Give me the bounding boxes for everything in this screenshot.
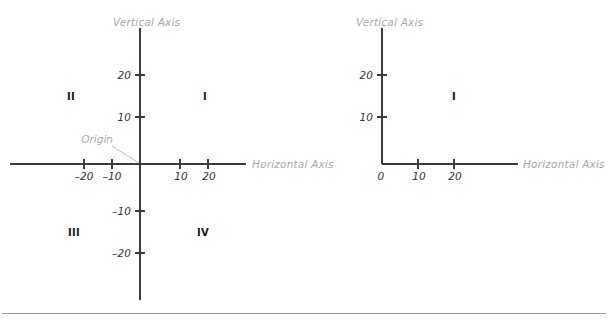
right-horizontal-axis-title: Horizontal Axis [523, 158, 605, 170]
left-vertical-axis-title: Vertical Axis [113, 16, 180, 28]
quadrant-label-iv: IV [197, 227, 209, 238]
left-xtick-label--10: –10 [103, 170, 122, 182]
figure-canvas: Vertical Axis Horizontal Axis –20 –10 10… [0, 0, 608, 323]
right-ytick-label-20: 20 [359, 69, 373, 81]
right-xtick-label-10: 10 [412, 170, 426, 182]
left-ytick-label-20: 20 [117, 69, 131, 81]
right-ytick-label-10: 10 [359, 111, 373, 123]
right-vertical-axis-title: Vertical Axis [356, 16, 423, 28]
left-horizontal-axis-title: Horizontal Axis [252, 158, 334, 170]
left-ytick-label--10: –10 [112, 205, 131, 217]
origin-annotation-label: Origin [81, 133, 113, 145]
left-ytick-label-10: 10 [117, 111, 131, 123]
origin-leader-line [112, 146, 139, 163]
right-quadrant-label-i: I [452, 91, 456, 102]
left-xtick-label-20: 20 [202, 170, 216, 182]
quadrant-label-i: I [203, 91, 207, 102]
left-xtick-label--20: –20 [75, 170, 94, 182]
left-xtick-label-10: 10 [174, 170, 188, 182]
left-ytick-label--20: –20 [112, 247, 131, 259]
right-xtick-label-20: 20 [448, 170, 462, 182]
quadrant-label-ii: II [67, 91, 75, 102]
quadrant-label-iii: III [68, 227, 80, 238]
right-chart-axes [377, 28, 518, 169]
right-xtick-label-0: 0 [378, 170, 385, 182]
